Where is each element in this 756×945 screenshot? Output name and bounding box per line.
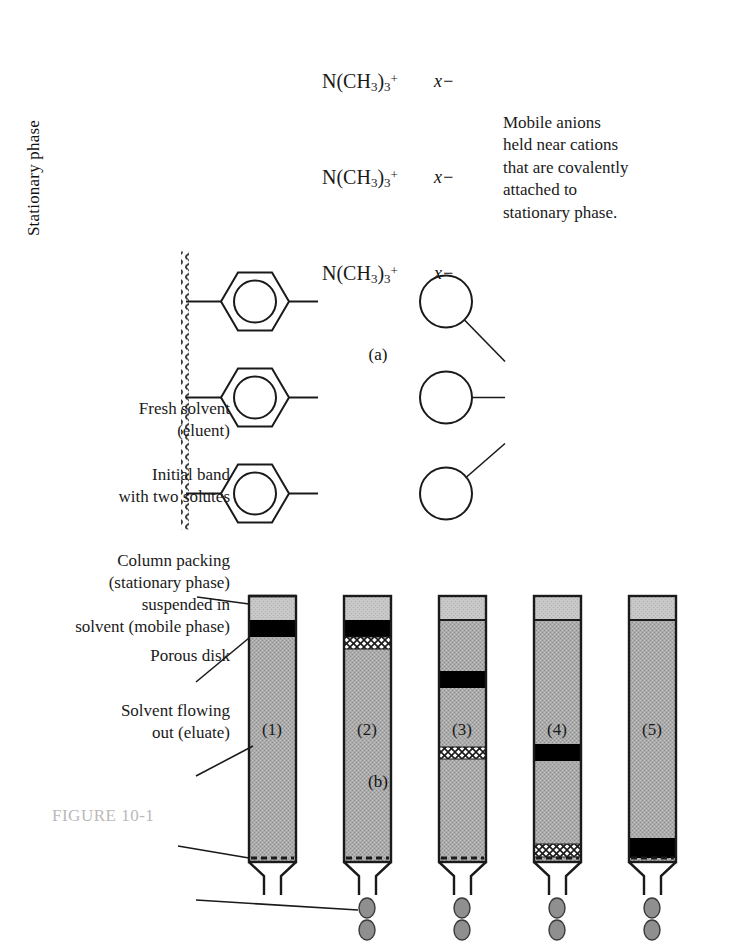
column-1 bbox=[249, 596, 296, 895]
column-2-fresh-solvent bbox=[344, 596, 391, 620]
column-2 bbox=[344, 596, 391, 940]
column-number-3: (3) bbox=[432, 720, 492, 740]
column-4-spout bbox=[534, 862, 581, 895]
column-4-fresh-solvent bbox=[534, 596, 581, 620]
caption-line-4: attached to bbox=[503, 179, 733, 201]
column-number-5: (5) bbox=[622, 720, 682, 740]
mobile-anion-caption: Mobile anions held near cations that are… bbox=[503, 112, 733, 224]
initial-band-label: Initial band with two solutes bbox=[14, 464, 230, 508]
anion-label-2: x− bbox=[434, 167, 454, 188]
functional-group-3: N(CH3)3+ bbox=[322, 262, 398, 287]
column-packing-label: Column packing (stationary phase) suspen… bbox=[8, 550, 230, 638]
column-packing-line-3: suspended in bbox=[8, 594, 230, 616]
column-3 bbox=[439, 596, 486, 940]
column-3-spout bbox=[439, 862, 486, 895]
column-5-droplet-1 bbox=[644, 898, 660, 918]
initial-band-line-2: with two solutes bbox=[14, 486, 230, 508]
fresh-solvent-line-2: (eluent) bbox=[60, 420, 230, 442]
column-2-spout bbox=[344, 862, 391, 895]
figure-caption: FIGURE 10-1 bbox=[52, 806, 154, 826]
anion-label-3: x− bbox=[434, 263, 454, 284]
column-2-droplet-2 bbox=[359, 920, 375, 940]
column-3-hatched-band bbox=[439, 747, 486, 759]
column-packing-line-2: (stationary phase) bbox=[8, 572, 230, 594]
column-5-black-band bbox=[629, 838, 676, 858]
fresh-solvent-label: Fresh solvent (eluent) bbox=[60, 398, 230, 442]
panel-b-label: (b) bbox=[0, 772, 756, 792]
eluate-label: Solvent flowing out (eluate) bbox=[40, 700, 230, 744]
eluate-line-2: out (eluate) bbox=[40, 722, 230, 744]
column-3-droplet-2 bbox=[454, 920, 470, 940]
caption-line-1: Mobile anions bbox=[503, 112, 733, 134]
column-4-black-band bbox=[534, 744, 581, 761]
column-5-droplet-2 bbox=[644, 920, 660, 940]
column-4-hatched-band bbox=[534, 844, 581, 857]
eluate-line-1: Solvent flowing bbox=[40, 700, 230, 722]
initial-band-line-1: Initial band bbox=[14, 464, 230, 486]
column-1-spout bbox=[249, 862, 296, 895]
fresh-solvent-line-1: Fresh solvent bbox=[60, 398, 230, 420]
porous-disk-label: Porous disk bbox=[60, 645, 230, 667]
column-4 bbox=[534, 596, 581, 940]
functional-group-1: N(CH3)3+ bbox=[322, 70, 398, 95]
leader-line-porous-disk bbox=[178, 846, 249, 858]
column-3-droplet-1 bbox=[454, 898, 470, 918]
column-4-droplet-1 bbox=[549, 898, 565, 918]
panel-a-label: (a) bbox=[0, 345, 756, 365]
column-3-black-band bbox=[439, 671, 486, 688]
caption-line-5: stationary phase. bbox=[503, 202, 733, 224]
column-4-droplet-2 bbox=[549, 920, 565, 940]
column-packing-line-1: Column packing bbox=[8, 550, 230, 572]
leader-line-eluate bbox=[196, 900, 358, 910]
column-3-fresh-solvent bbox=[439, 596, 486, 620]
functional-group-2: N(CH3)3+ bbox=[322, 166, 398, 191]
column-number-2: (2) bbox=[337, 720, 397, 740]
column-2-hatched-band bbox=[344, 637, 391, 649]
column-2-droplet-1 bbox=[359, 898, 375, 918]
column-2-black-band bbox=[344, 620, 391, 637]
panel-b-chromatography: Fresh solvent (eluent) Initial band with… bbox=[0, 380, 756, 819]
caption-line-2: held near cations bbox=[503, 134, 733, 156]
column-5-fresh-solvent bbox=[629, 596, 676, 620]
column-packing-line-4: solvent (mobile phase) bbox=[8, 616, 230, 638]
column-1-initial-band bbox=[249, 620, 296, 637]
column-5-spout bbox=[629, 862, 676, 895]
column-number-1: (1) bbox=[242, 720, 302, 740]
caption-line-3: that are covalently bbox=[503, 157, 733, 179]
panel-a-ion-exchange: Stationary phase bbox=[0, 0, 756, 380]
column-5 bbox=[629, 596, 676, 940]
anion-label-1: x− bbox=[434, 71, 454, 92]
column-1-fresh-solvent bbox=[249, 596, 296, 620]
column-number-4: (4) bbox=[527, 720, 587, 740]
